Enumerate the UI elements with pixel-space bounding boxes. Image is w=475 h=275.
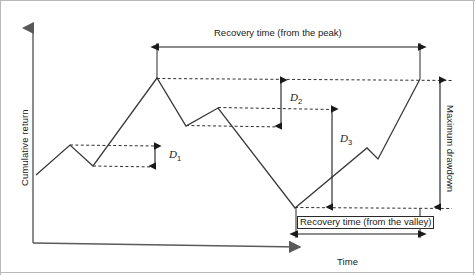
level-peak-1: [70, 145, 156, 146]
y-axis-label: Cumulative return: [20, 109, 30, 186]
drawdown-diagram: Cumulative return Time Recovery time (fr…: [0, 0, 475, 275]
recovery-time-from-peak-label: Recovery time (from the peak): [214, 28, 342, 38]
d3-subscript: 3: [348, 138, 352, 147]
axes-group: [33, 28, 300, 247]
d2-label: D2: [290, 92, 302, 106]
d1-subscript: 1: [177, 154, 181, 163]
scan-edge-left: [0, 0, 1, 275]
scan-edge-top: [0, 0, 475, 1]
d2-subscript: 2: [298, 97, 302, 106]
maximum-drawdown-label: Maximum drawdown: [446, 105, 456, 192]
recovery-from-peak-measure: [157, 43, 420, 79]
level-peak-2: [218, 108, 333, 110]
scan-edge-bottom: [0, 272, 475, 273]
level-trough-1: [93, 166, 156, 167]
diagram-canvas: [0, 0, 475, 275]
x-axis: [33, 243, 300, 247]
level-peak-max: [157, 79, 452, 81]
scan-edge-right: [473, 0, 474, 275]
recovery-time-from-valley-label: Recovery time (from the valley): [297, 216, 434, 229]
d3-letter: D: [340, 132, 348, 144]
d1-label: D1: [169, 149, 181, 163]
level-valley-min: [295, 208, 452, 209]
cumulative-return-curve: [36, 78, 420, 208]
reference-levels-group: [70, 79, 452, 209]
x-axis-label: Time: [337, 257, 358, 267]
level-trough-2: [186, 126, 282, 128]
d1-letter: D: [169, 148, 177, 160]
d2-letter: D: [290, 91, 298, 103]
d3-label: D3: [340, 133, 352, 147]
